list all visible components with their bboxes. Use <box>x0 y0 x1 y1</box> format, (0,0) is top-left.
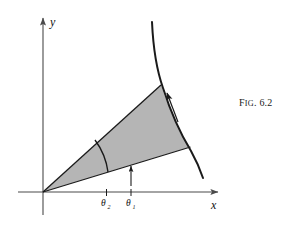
figure-caption-suffix: . 6.2 <box>254 97 273 108</box>
theta-two-subscript: 2 <box>108 204 111 210</box>
figure-caption: FIG. 6.2 <box>239 97 273 108</box>
y-axis-label: y <box>49 15 56 29</box>
theta-two-label: θ <box>101 198 106 208</box>
figure-container: y x θ 2 θ 1 FIG. 6.2 <box>0 0 291 235</box>
theta-one-subscript: 1 <box>133 204 136 210</box>
x-axis-label: x <box>210 198 217 212</box>
figure-svg: y x θ 2 θ 1 <box>0 0 291 235</box>
figure-caption-smallcaps: IG <box>245 99 254 108</box>
theta-one-label: θ <box>126 198 131 208</box>
